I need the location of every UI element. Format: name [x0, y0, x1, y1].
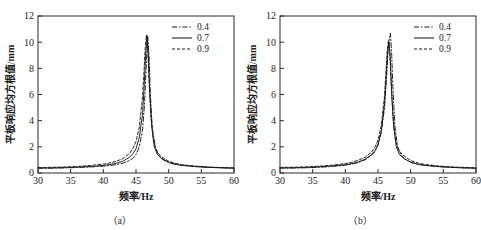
y-tick-label: 10 [24, 37, 34, 48]
plot-area-b: 30354045505560024681012频率/Hz平板响应均方根值/mm0… [240, 0, 481, 230]
x-tick-label: 30 [275, 175, 285, 186]
x-tick-label: 35 [66, 175, 76, 186]
x-tick-label: 45 [373, 175, 383, 186]
y-tick-label: 4 [271, 115, 276, 126]
y-tick-label: 0 [29, 167, 34, 178]
x-tick-label: 60 [471, 175, 481, 186]
legend-label-0.7: 0.7 [197, 33, 209, 43]
y-tick-label: 12 [24, 10, 34, 21]
x-tick-label: 45 [131, 175, 141, 186]
plot-area-a: 30354045505560024681012频率/Hz平板响应均方根值/mm0… [0, 0, 240, 230]
legend-label-0.4: 0.4 [439, 22, 451, 32]
legend-label-0.4: 0.4 [197, 22, 209, 32]
y-axis-title: 平板响应均方根值/mm [246, 44, 258, 144]
subcaption-b: （b） [240, 213, 481, 227]
x-tick-label: 50 [406, 175, 416, 186]
y-tick-label: 10 [266, 37, 276, 48]
subcaption-a: （a） [0, 213, 240, 227]
x-tick-label: 30 [33, 175, 43, 186]
figure-container: 30354045505560024681012频率/Hz平板响应均方根值/mm0… [0, 0, 481, 230]
x-tick-label: 40 [340, 175, 350, 186]
y-tick-label: 6 [29, 89, 34, 100]
x-tick-label: 55 [438, 175, 448, 186]
y-axis-title: 平板响应均方根值/mm [4, 44, 16, 144]
y-tick-label: 8 [271, 63, 276, 74]
y-tick-label: 2 [29, 141, 34, 152]
chart-panel-a: 30354045505560024681012频率/Hz平板响应均方根值/mm0… [0, 0, 240, 230]
x-axis-title: 频率/Hz [361, 190, 397, 202]
x-tick-label: 50 [164, 175, 174, 186]
x-tick-label: 35 [308, 175, 318, 186]
legend-label-0.9: 0.9 [439, 44, 451, 54]
chart-panel-b: 30354045505560024681012频率/Hz平板响应均方根值/mm0… [240, 0, 481, 230]
y-tick-label: 0 [271, 167, 276, 178]
legend-label-0.9: 0.9 [197, 44, 209, 54]
x-tick-label: 55 [196, 175, 206, 186]
x-tick-label: 40 [98, 175, 108, 186]
y-tick-label: 4 [29, 115, 34, 126]
legend-label-0.7: 0.7 [439, 33, 451, 43]
y-tick-label: 6 [271, 89, 276, 100]
y-tick-label: 2 [271, 141, 276, 152]
x-tick-label: 60 [229, 175, 239, 186]
y-tick-label: 8 [29, 63, 34, 74]
x-axis-title: 频率/Hz [119, 190, 155, 202]
y-tick-label: 12 [266, 10, 276, 21]
